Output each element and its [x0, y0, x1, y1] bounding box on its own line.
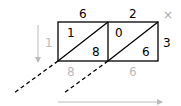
cell-2-lower: 6 [142, 45, 150, 59]
cell-2-upper: 0 [115, 26, 123, 40]
result-digit-left: 1 [45, 36, 53, 50]
diagonal-extensions [14, 61, 108, 93]
multiplier-digit: 3 [163, 36, 171, 50]
multiplicand-digit-2: 2 [129, 7, 137, 21]
result-digit-bottom-2: 6 [129, 65, 137, 79]
multiplication-sign: × [163, 8, 173, 22]
lattice-diagram: 6 2 × 3 1 8 0 6 1 8 6 [0, 0, 181, 106]
result-digit-bottom-1: 8 [67, 65, 75, 79]
cell-1-upper: 1 [67, 26, 75, 40]
cell-1-lower: 8 [92, 45, 100, 59]
multiplicand-digit-1: 6 [79, 7, 87, 21]
